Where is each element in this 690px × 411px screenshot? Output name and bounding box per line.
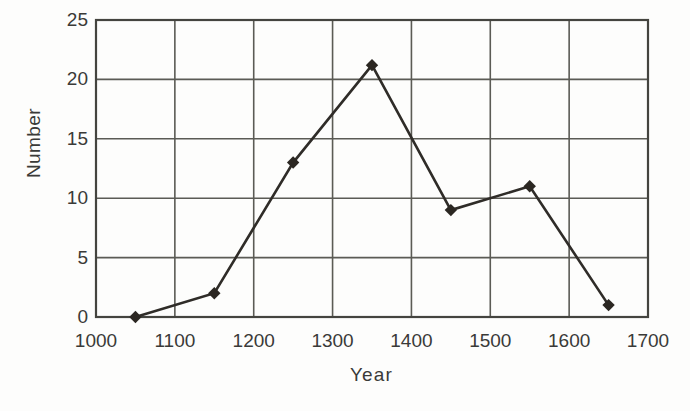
- x-tick-label: 1600: [534, 330, 604, 352]
- x-tick-label: 1100: [140, 330, 210, 352]
- x-tick-label: 1300: [298, 330, 368, 352]
- x-axis-title: Year: [95, 364, 648, 386]
- y-tick-label: 10: [42, 187, 88, 209]
- y-axis-title: Number: [23, 83, 45, 203]
- y-tick-label: 15: [42, 128, 88, 150]
- x-tick-label: 1700: [613, 330, 683, 352]
- y-tick-label: 0: [42, 306, 88, 328]
- y-tick-label: 20: [42, 68, 88, 90]
- chart-figure: 0510152025 10001100120013001400150016001…: [0, 0, 690, 411]
- x-tick-label: 1000: [61, 330, 131, 352]
- x-tick-label: 1400: [376, 330, 446, 352]
- y-tick-label: 25: [42, 9, 88, 31]
- y-tick-label: 5: [42, 247, 88, 269]
- x-tick-label: 1500: [455, 330, 525, 352]
- x-tick-label: 1200: [219, 330, 289, 352]
